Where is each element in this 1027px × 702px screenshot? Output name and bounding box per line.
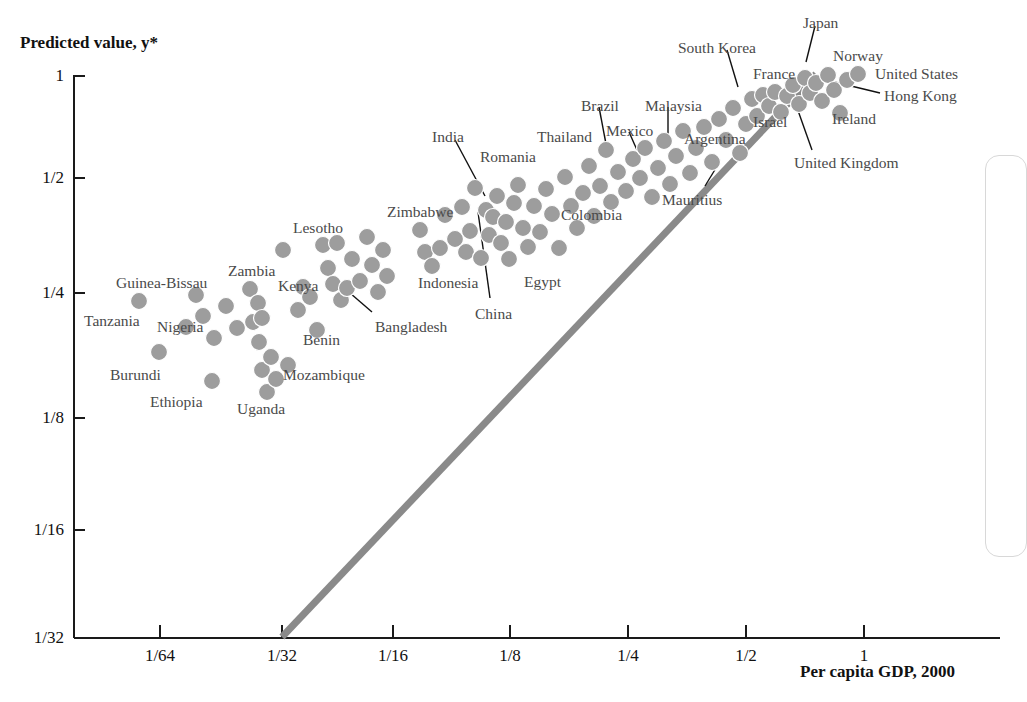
data-point [662, 176, 679, 193]
data-point [610, 164, 627, 181]
country-label: Mexico [606, 122, 653, 140]
data-point [375, 242, 392, 259]
data-point [501, 251, 518, 268]
data-point [650, 160, 667, 177]
x-tick-label: 1/32 [267, 646, 297, 666]
data-point [538, 181, 555, 198]
data-point [575, 185, 592, 202]
country-label: China [475, 305, 512, 323]
country-label: Thailand [537, 128, 592, 146]
data-point [352, 273, 369, 290]
country-label: Bangladesh [375, 318, 447, 336]
data-point [510, 177, 527, 194]
data-point [229, 320, 246, 337]
country-label: Brazil [581, 97, 619, 115]
country-label: Romania [480, 148, 536, 166]
country-label: United Kingdom [794, 154, 899, 172]
data-point [704, 154, 721, 171]
country-label: Indonesia [418, 274, 478, 292]
data-point [557, 169, 574, 186]
data-point [131, 293, 148, 310]
country-label: Benin [303, 331, 340, 349]
country-label: Uganda [237, 400, 285, 418]
country-label: Kenya [278, 277, 318, 295]
data-point [344, 251, 361, 268]
data-point [498, 214, 515, 231]
x-tick-label: 1/8 [499, 646, 521, 666]
data-point [515, 220, 532, 237]
data-point [290, 302, 307, 319]
y-tick-label: 1/16 [34, 520, 64, 540]
country-label: Lesotho [293, 219, 343, 237]
data-point [263, 349, 280, 366]
y-tick-marks [74, 76, 85, 638]
data-point [379, 268, 396, 285]
y-tick-label: 1/32 [34, 628, 64, 648]
data-point [637, 140, 654, 157]
country-label: Nigeria [157, 318, 203, 336]
country-label: Malaysia [645, 97, 702, 115]
data-point [581, 158, 598, 175]
x-tick-marks [160, 625, 864, 638]
data-point [151, 344, 168, 361]
country-label: United States [875, 65, 958, 83]
data-point [711, 111, 728, 128]
data-point [268, 371, 285, 388]
data-point [454, 199, 471, 216]
country-label: Japan [803, 14, 838, 32]
data-point [359, 229, 376, 246]
data-point [506, 195, 523, 212]
data-point [489, 188, 506, 205]
y-tick-label: 1/4 [42, 283, 64, 303]
x-tick-label: 1/16 [378, 646, 408, 666]
y-tick-label: 1 [56, 66, 65, 86]
country-label: South Korea [678, 39, 756, 57]
data-point [551, 240, 568, 257]
data-point [206, 330, 223, 347]
country-label: Tanzania [84, 312, 140, 330]
data-point [254, 310, 271, 327]
country-label: Norway [833, 47, 883, 65]
data-point [275, 242, 292, 259]
data-point [251, 334, 268, 351]
y-axis-title: Predicted value, y* [20, 33, 158, 53]
data-point [370, 284, 387, 301]
y-tick-label: 1/8 [42, 408, 64, 428]
data-point [520, 239, 537, 256]
country-label: France [753, 65, 795, 83]
data-point [473, 250, 490, 267]
country-label: Zimbabwe [387, 203, 453, 221]
country-label: Ethiopia [150, 393, 203, 411]
x-tick-label: 1/64 [145, 646, 175, 666]
data-point [526, 198, 543, 215]
country-label: Ireland [832, 110, 876, 128]
data-point [532, 224, 549, 241]
country-label: India [432, 128, 464, 146]
data-point [204, 373, 221, 390]
x-tick-label: 1/4 [617, 646, 639, 666]
data-point [364, 257, 381, 274]
data-point [250, 295, 267, 312]
data-point [618, 183, 635, 200]
country-label: Egypt [524, 273, 561, 291]
data-point [424, 258, 441, 275]
country-label: Burundi [110, 366, 161, 384]
country-label: Argentina [684, 130, 746, 148]
data-point [467, 180, 484, 197]
data-point [644, 189, 661, 206]
data-point [598, 142, 615, 159]
data-point [668, 148, 685, 165]
country-label: Mozambique [283, 366, 365, 384]
country-label: Guinea-Bissau [116, 274, 207, 292]
x-tick-label: 1/2 [735, 646, 757, 666]
data-point [218, 298, 235, 315]
country-label: Hong Kong [884, 87, 957, 105]
country-label: Zambia [228, 262, 275, 280]
y-tick-label: 1/2 [42, 168, 64, 188]
x-tick-label: 1 [860, 646, 869, 666]
side-panel-edge [985, 155, 1027, 557]
data-point [656, 133, 673, 150]
data-point [493, 235, 510, 252]
data-point [432, 240, 449, 257]
